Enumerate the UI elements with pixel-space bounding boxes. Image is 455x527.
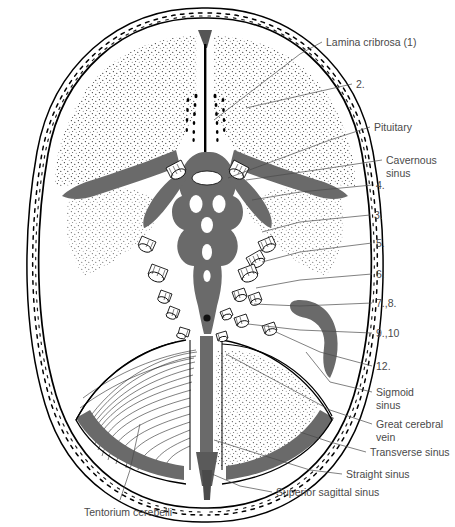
crista-galli-and-sagittal-sinus-origin [198, 30, 212, 152]
leader-6 [256, 274, 372, 288]
label-3: 3. [374, 209, 383, 221]
label-5: 5. [376, 237, 385, 249]
label-lamina-cribrosa: Lamina cribrosa (1) [326, 36, 416, 48]
label-transverse-sinus: Transverse sinus [370, 446, 450, 458]
label-pituitary: Pituitary [374, 121, 413, 133]
label-sigmoid-sinus-line2: sinus [376, 399, 401, 411]
cranial-base-diagram: Lamina cribrosa (1) 2. Pituitary Caverno… [0, 0, 455, 527]
label-cavernous-sinus-line1: Cavernous [386, 154, 437, 166]
label-cavernous-sinus-line2: sinus [386, 167, 411, 179]
label-superior-sagittal-sinus: Superior sagittal sinus [276, 486, 379, 498]
label-6: 6. [376, 268, 385, 280]
label-7-8: 7.,8. [376, 297, 396, 309]
label-great-cerebral-vein-l2: vein [376, 431, 395, 443]
label-great-cerebral-vein-l1: Great cerebral [376, 418, 443, 430]
foramen-dot [203, 314, 210, 321]
label-sigmoid-sinus-line1: Sigmoid [376, 386, 414, 398]
label-4: 4. [376, 179, 385, 191]
label-2: 2. [356, 78, 365, 90]
label-straight-sinus: Straight sinus [346, 468, 410, 480]
label-9-10: 9.,10 [376, 327, 400, 339]
label-tentorium-cerebelli: Tentorium cerebelli [84, 506, 172, 518]
label-12: 12. [376, 360, 391, 372]
